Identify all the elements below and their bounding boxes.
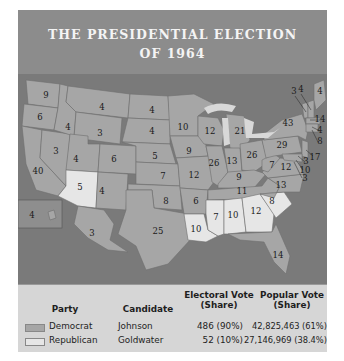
ev-ct: 8 xyxy=(317,136,322,146)
ev-ga: 12 xyxy=(251,206,262,216)
ev-wy: 3 xyxy=(97,128,102,138)
ev-mn: 10 xyxy=(178,122,189,132)
ev-nv: 3 xyxy=(53,146,58,156)
state-sd xyxy=(122,118,170,144)
ev-sc: 8 xyxy=(269,196,274,206)
ev-me: 4 xyxy=(317,86,322,96)
election-map-figure: THE PRESIDENTIAL ELECTION OF 1964 xyxy=(18,10,327,351)
candidate-johnson: Johnson xyxy=(118,321,153,332)
header-popular-line1: Popular Vote xyxy=(258,290,326,300)
ev-ny: 43 xyxy=(283,118,294,128)
candidate-goldwater: Goldwater xyxy=(118,335,163,346)
hawaii-inset xyxy=(18,200,62,228)
ev-fl: 14 xyxy=(273,250,284,260)
ev-ky: 9 xyxy=(236,172,241,182)
title-line-1: THE PRESIDENTIAL ELECTION xyxy=(18,27,327,42)
ev-vt: 3 xyxy=(291,86,296,96)
ev-ca: 40 xyxy=(33,166,44,176)
party-democrat: Democrat xyxy=(49,321,92,332)
ev-or: 6 xyxy=(37,112,42,122)
party-republican: Republican xyxy=(49,335,98,346)
title-banner: THE PRESIDENTIAL ELECTION OF 1964 xyxy=(18,10,327,74)
header-popular-vote: Popular Vote (Share) xyxy=(258,290,326,310)
title-line-2: OF 1964 xyxy=(18,46,327,61)
ev-dc: 3 xyxy=(302,173,307,183)
state-ct-ri xyxy=(306,124,318,132)
ev-nj: 17 xyxy=(310,152,321,162)
ev-va: 12 xyxy=(281,162,292,172)
ev-il: 26 xyxy=(209,158,220,168)
electoral-goldwater: 52 (10%) xyxy=(183,335,243,346)
popular-johnson: 42,825,463 (61%) xyxy=(243,321,327,332)
ev-ne: 5 xyxy=(152,151,157,161)
republican-swatch xyxy=(25,338,45,346)
ev-sd: 4 xyxy=(149,126,154,136)
header-party: Party xyxy=(40,304,90,314)
ev-ak: 3 xyxy=(89,228,94,238)
ev-pa: 29 xyxy=(277,140,288,150)
ev-nd: 4 xyxy=(149,105,154,115)
ev-nm: 4 xyxy=(99,186,104,196)
header-electoral-line1: Electoral Vote xyxy=(183,290,255,300)
ev-ar: 6 xyxy=(193,196,198,206)
ev-id: 4 xyxy=(65,122,70,132)
ev-tn: 11 xyxy=(237,186,248,196)
us-states-map: 9 6 40 4 3 4 3 4 6 5 4 4 4 5 7 8 25 10 9… xyxy=(18,74,327,284)
ev-ma: 14 xyxy=(315,114,326,124)
ev-ut: 4 xyxy=(73,154,78,164)
header-electoral-vote: Electoral Vote (Share) xyxy=(183,290,255,310)
header-candidate: Candidate xyxy=(118,304,178,314)
ev-al: 10 xyxy=(228,210,239,220)
ev-mo: 12 xyxy=(189,170,200,180)
ev-ks: 7 xyxy=(160,171,165,181)
map-svg: 9 6 40 4 3 4 3 4 6 5 4 4 4 5 7 8 25 10 9… xyxy=(18,74,327,284)
state-co xyxy=(98,144,136,174)
ev-nc: 13 xyxy=(276,180,287,190)
ev-ok: 8 xyxy=(163,196,168,206)
header-electoral-line2: (Share) xyxy=(183,300,255,310)
results-legend-table: Party Candidate Electoral Vote (Share) P… xyxy=(18,284,327,352)
ev-ms: 7 xyxy=(213,212,218,222)
state-ks xyxy=(136,162,180,186)
ev-ri: 4 xyxy=(317,125,322,135)
ev-wi: 12 xyxy=(205,126,216,136)
ev-wv: 7 xyxy=(269,160,274,170)
ev-co: 6 xyxy=(111,154,116,164)
ev-in: 13 xyxy=(227,156,238,166)
ev-hi: 4 xyxy=(29,210,34,220)
ev-la: 10 xyxy=(191,224,202,234)
state-nh xyxy=(308,100,314,118)
ev-ia: 9 xyxy=(186,146,191,156)
ev-wa: 9 xyxy=(43,90,48,100)
ev-mi: 21 xyxy=(235,126,246,136)
ev-tx: 25 xyxy=(153,226,164,236)
democrat-swatch xyxy=(25,324,45,332)
popular-goldwater: 27,146,969 (38.4%) xyxy=(243,335,327,346)
electoral-johnson: 486 (90%) xyxy=(183,321,243,332)
ev-az: 5 xyxy=(77,182,82,192)
ev-oh: 26 xyxy=(247,150,258,160)
ev-mt: 4 xyxy=(99,102,104,112)
ev-nh: 4 xyxy=(298,84,303,94)
header-popular-line2: (Share) xyxy=(258,300,326,310)
